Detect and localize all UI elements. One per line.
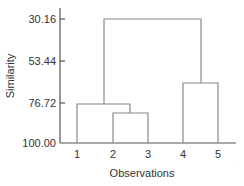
dendrogram-chart: 30.16 53.44 76.72 100.00 Similarity 1 2 … (0, 0, 244, 186)
x-tick-label: 2 (110, 148, 116, 160)
x-tick-label: 5 (215, 148, 221, 160)
footnote-mark: ' (232, 159, 233, 164)
merge-4-5 (183, 83, 218, 143)
y-axis-title: Similarity (4, 53, 16, 98)
merge-top (104, 19, 201, 104)
x-axis-title: Observations (110, 167, 175, 179)
y-tick-label: 76.72 (28, 97, 56, 109)
x-tick-label: 1 (74, 148, 80, 160)
x-tick-label: 3 (145, 148, 151, 160)
y-tick-label: 100.00 (22, 137, 56, 149)
x-tick-label: 4 (180, 148, 186, 160)
merge-1-23 (77, 104, 130, 143)
merge-2-3 (113, 113, 148, 143)
y-tick-label: 30.16 (28, 13, 56, 25)
y-tick-label: 53.44 (28, 55, 56, 67)
